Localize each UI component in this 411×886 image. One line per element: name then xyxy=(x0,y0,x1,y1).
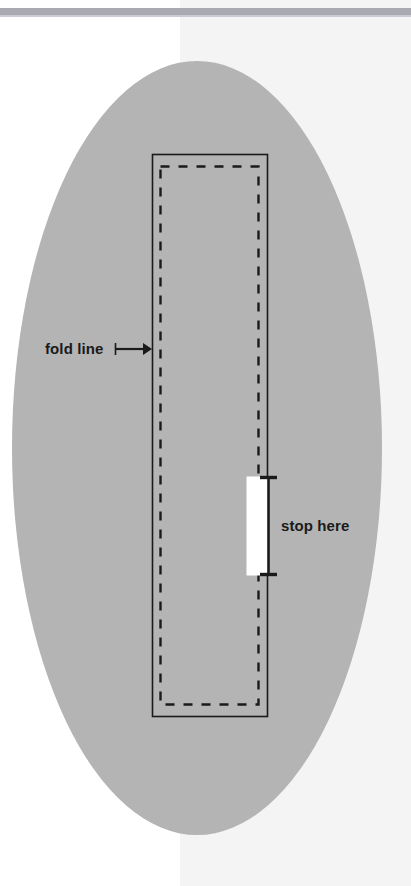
fabric-oval xyxy=(12,61,382,835)
stop-here-label: stop here xyxy=(281,517,349,534)
top-rule xyxy=(0,8,411,15)
top-rule-shadow xyxy=(0,15,411,17)
opening-gap xyxy=(247,477,268,575)
diagram-svg: fold line stop here xyxy=(0,0,411,886)
diagram-canvas: fold line stop here xyxy=(0,0,411,886)
fold-line-label: fold line xyxy=(45,340,103,357)
